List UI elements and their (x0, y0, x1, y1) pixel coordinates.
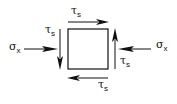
normal-right-arrow (118, 46, 151, 52)
normal-left-label: σx (9, 40, 21, 55)
square-element (68, 29, 108, 69)
shear-top-arrow (68, 19, 109, 25)
shear-bottom-label: τs (98, 78, 108, 93)
normal-left-arrow (24, 46, 58, 52)
stress-element-diagram: τs τs τs τs σx σx (0, 0, 177, 104)
shear-right-arrow (112, 28, 118, 69)
shear-left-label: τs (45, 23, 55, 38)
normal-right-label: σx (156, 38, 168, 53)
shear-left-arrow (57, 29, 63, 70)
shear-top-label: τs (71, 4, 81, 19)
shear-right-label: τs (120, 54, 130, 69)
